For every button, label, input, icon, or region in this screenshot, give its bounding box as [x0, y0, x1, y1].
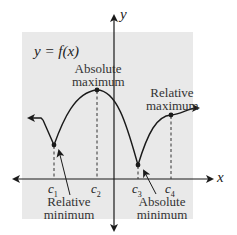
relative-maximum-label: Relative maximum [146, 86, 198, 112]
absolute-minimum-label: Absolute minimum [136, 195, 188, 221]
tick-c2: c2 [91, 182, 101, 201]
equation-label: y = f(x) [34, 45, 79, 58]
absolute-minimum-point [136, 163, 141, 168]
relative-minimum-point [52, 143, 57, 148]
y-axis-label: y [120, 8, 127, 21]
tick-c3: c3 [132, 182, 142, 201]
tick-c4: c4 [165, 182, 175, 201]
tick-c1: c1 [48, 182, 58, 201]
graph-canvas [0, 0, 237, 235]
x-axis-label: x [217, 171, 224, 184]
relative-maximum-point [169, 113, 174, 118]
absolute-maximum-label: Absolute maximum [72, 62, 124, 88]
extrema-diagram: y x y = f(x) Absolute maximum Relative m… [0, 0, 237, 235]
